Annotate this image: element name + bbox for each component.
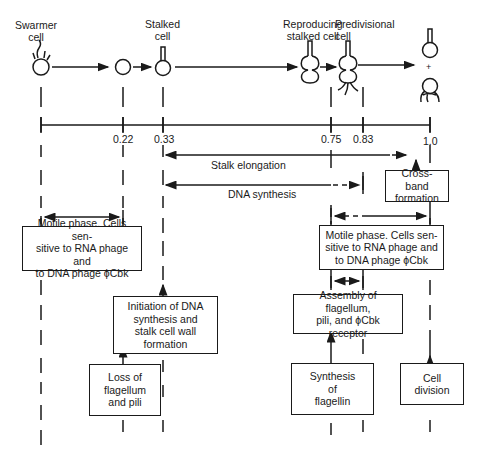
daughter-swarmer-cell-icon	[421, 79, 439, 103]
predivisional-cell-icon	[338, 41, 358, 95]
plus-sign: +	[426, 61, 431, 73]
initiation-dna-synthesis-box: Initiation of DNA synthesis and stalk ce…	[113, 296, 218, 354]
dna-synthesis-label: DNA synthesis	[228, 188, 296, 200]
tick-1-0: 1.0	[423, 135, 438, 147]
stage-label-reproducing: Reproducing stalked cell	[283, 18, 343, 42]
tick-0-22: 0.22	[113, 133, 133, 145]
cell-division-box: Cell division	[400, 363, 464, 405]
stage-label-predivisional: Predivisional cell	[335, 18, 395, 42]
reproducing-cell-icon	[301, 41, 319, 83]
tick-0-83: 0.83	[353, 133, 373, 145]
swarmer-cell-icon	[33, 40, 50, 75]
tick-0-33: 0.33	[154, 133, 174, 145]
stalk-elongation-label: Stalk elongation	[211, 159, 286, 171]
stage-label-swarmer: Swarmer cell	[15, 19, 57, 43]
tick-0-75: 0.75	[321, 133, 341, 145]
motile-phase-left-box: Motile phase. Cells sen- sitive to RNA p…	[22, 226, 142, 271]
motile-phase-right-box: Motile phase. Cells sen- sitive to RNA p…	[319, 225, 444, 270]
timeline-axis	[41, 117, 430, 133]
cross-band-formation-box: Cross-band formation	[385, 170, 449, 202]
stalked-cell-icon	[156, 47, 171, 76]
daughter-stalked-cell-icon	[423, 29, 438, 58]
loss-of-flagellum-box: Loss of flagellum and pili	[89, 364, 161, 416]
synthesis-of-flagellin-box: Synthesis of flagellin	[291, 363, 374, 415]
assembly-flagellum-box: Assembly of flagellum, pili, and ϕCbk re…	[293, 294, 403, 334]
stage-label-stalked: Stalked cell	[145, 18, 180, 42]
intermediate-cell-icon	[116, 60, 131, 75]
